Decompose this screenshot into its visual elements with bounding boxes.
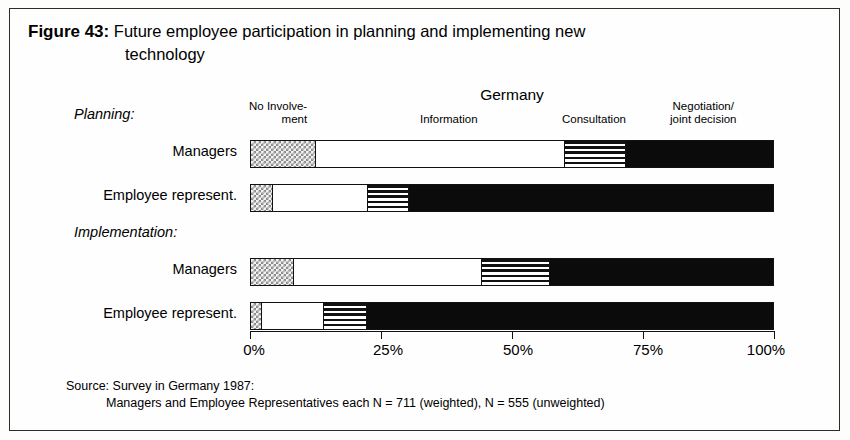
figure-title-line-2: technology bbox=[125, 43, 718, 65]
bar-segment-consultation bbox=[368, 185, 409, 211]
legend-label-negotiation-line2: joint decision bbox=[670, 113, 736, 126]
x-axis-tick-label-25: 25% bbox=[373, 341, 403, 358]
x-axis-tick-100 bbox=[774, 331, 775, 339]
figure-title: Figure 43: Future employee participation… bbox=[28, 20, 718, 65]
row-label-planning-managers: Managers bbox=[62, 143, 237, 159]
stacked-bar-implementation-employee-represent bbox=[250, 302, 774, 330]
x-axis-tick-label-0: 0% bbox=[243, 341, 265, 358]
figure-container: Figure 43: Future employee participation… bbox=[0, 0, 850, 440]
legend-label-negotiation-line1: Negotiation/ bbox=[670, 100, 736, 113]
legend-label-no-involvement-line1: No Involve- bbox=[249, 100, 307, 113]
stacked-bar-planning-employee-represent bbox=[250, 184, 774, 212]
x-axis-tick-label-100: 100% bbox=[747, 341, 785, 358]
source-note: Source: Survey in Germany 1987: Managers… bbox=[66, 378, 796, 412]
figure-title-line-1: Future employee participation in plannin… bbox=[114, 22, 585, 40]
row-label-planning-employee-represent: Employee represent. bbox=[62, 187, 237, 203]
x-axis-tick-25 bbox=[381, 331, 382, 339]
group-label-implementation: Implementation: bbox=[74, 224, 177, 240]
bar-segment-no-involvement bbox=[251, 303, 262, 329]
legend-item-no-involvement: No Involve- ment bbox=[249, 100, 307, 125]
bar-segment-no-involvement bbox=[251, 141, 316, 167]
chart-legend: No Involve- ment Information Consultatio… bbox=[250, 100, 810, 134]
legend-item-consultation: Consultation bbox=[562, 113, 626, 126]
bar-segment-information bbox=[262, 303, 324, 329]
bar-segment-consultation bbox=[324, 303, 368, 329]
bar-segment-negotiation bbox=[550, 259, 773, 285]
row-label-implementation-managers: Managers bbox=[62, 261, 237, 277]
stacked-bar-planning-managers bbox=[250, 140, 774, 168]
plot-area bbox=[250, 140, 774, 332]
legend-item-negotiation: Negotiation/ joint decision bbox=[670, 100, 736, 125]
x-axis-tick-0 bbox=[250, 331, 251, 339]
bar-segment-consultation bbox=[565, 141, 626, 167]
figure-number-label: Figure 43: bbox=[28, 22, 109, 41]
legend-label-no-involvement-line2: ment bbox=[249, 113, 307, 126]
bar-segment-information bbox=[294, 259, 482, 285]
bar-segment-consultation bbox=[482, 259, 550, 285]
bar-segment-information bbox=[316, 141, 565, 167]
legend-item-information: Information bbox=[420, 113, 478, 126]
bar-segment-no-involvement bbox=[251, 259, 294, 285]
source-note-line-1: Source: Survey in Germany 1987: bbox=[66, 378, 796, 395]
bar-segment-negotiation bbox=[409, 185, 773, 211]
source-note-line-2: Managers and Employee Representatives ea… bbox=[106, 395, 796, 412]
group-label-planning: Planning: bbox=[74, 106, 134, 122]
bar-segment-information bbox=[273, 185, 369, 211]
stacked-bar-implementation-managers bbox=[250, 258, 774, 286]
bar-segment-no-involvement bbox=[251, 185, 273, 211]
row-label-implementation-employee-represent: Employee represent. bbox=[62, 305, 237, 321]
x-axis-tick-50 bbox=[512, 331, 513, 339]
bar-segment-negotiation bbox=[626, 141, 773, 167]
bar-segment-negotiation bbox=[367, 303, 773, 329]
x-axis-tick-label-75: 75% bbox=[633, 341, 663, 358]
x-axis-tick-label-50: 50% bbox=[503, 341, 533, 358]
x-axis-tick-75 bbox=[643, 331, 644, 339]
